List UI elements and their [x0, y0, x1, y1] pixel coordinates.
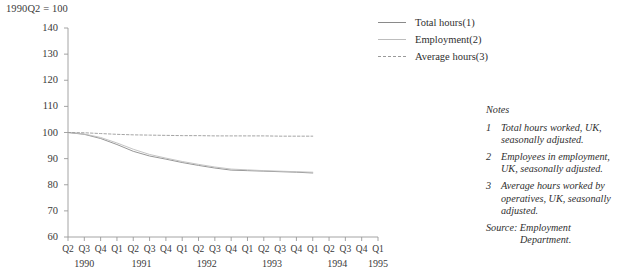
series-line	[68, 133, 313, 173]
x-axis-year-label: 1995	[358, 258, 398, 269]
y-axis-tick-label: 90	[28, 154, 58, 164]
source-continuation: Department.	[486, 234, 628, 247]
plot-area: 60708090100110120130140Q2Q3Q4Q1Q2Q3Q4Q1Q…	[0, 0, 400, 270]
note-number: 3	[486, 180, 501, 218]
legend-line-swatch	[378, 52, 406, 61]
note-item: 2Employees in employment, UK, seasonally…	[486, 151, 628, 176]
series-line	[68, 133, 313, 137]
notes-heading: Notes	[486, 104, 628, 117]
note-text: Employees in employment, UK, seasonally …	[501, 151, 628, 176]
legend-item: Employment(2)	[378, 32, 518, 47]
y-axis-tick-label: 60	[28, 232, 58, 242]
y-axis-tick-label: 100	[28, 128, 58, 138]
legend-item-label: Employment(2)	[415, 34, 482, 45]
x-axis-year-label: 1992	[187, 258, 227, 269]
y-axis-tick-label: 110	[28, 101, 58, 111]
x-axis-quarter-label: Q1	[367, 244, 389, 254]
legend-line-swatch	[378, 35, 406, 44]
notes-list: 1Total hours worked, UK, seasonally adju…	[486, 122, 628, 218]
source-label: Source: Employment	[486, 222, 628, 235]
y-axis-tick-label: 120	[28, 75, 58, 85]
note-text: Average hours worked by operatives, UK, …	[501, 180, 628, 218]
chart-page: 1990Q2 = 100 60708090100110120130140Q2Q3…	[0, 0, 628, 270]
y-axis-tick-label: 130	[28, 49, 58, 59]
x-axis-year-label: 1990	[64, 258, 104, 269]
x-axis-year-label: 1991	[121, 258, 161, 269]
x-axis-year-label: 1993	[252, 258, 292, 269]
y-axis-tick-label: 80	[28, 180, 58, 190]
legend-item: Total hours(1)	[378, 15, 518, 30]
legend-item-label: Total hours(1)	[415, 17, 475, 28]
x-axis-year-label: 1994	[317, 258, 357, 269]
y-axis-tick-label: 140	[28, 23, 58, 33]
note-text: Total hours worked, UK, seasonally adjus…	[501, 122, 628, 147]
note-item: 1Total hours worked, UK, seasonally adju…	[486, 122, 628, 147]
legend-item: Average hours(3)	[378, 49, 518, 64]
legend-line-swatch	[378, 18, 406, 27]
note-item: 3Average hours worked by operatives, UK,…	[486, 180, 628, 218]
note-number: 2	[486, 151, 501, 176]
legend-item-label: Average hours(3)	[415, 51, 488, 62]
notes-block: Notes 1Total hours worked, UK, seasonall…	[486, 104, 628, 247]
note-number: 1	[486, 122, 501, 147]
chart-svg	[0, 0, 400, 270]
y-axis-tick-label: 70	[28, 206, 58, 216]
chart-legend: Total hours(1)Employment(2)Average hours…	[378, 15, 518, 66]
